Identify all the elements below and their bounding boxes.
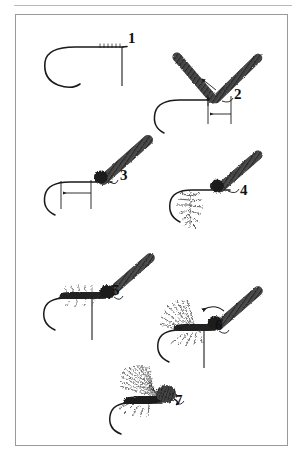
step-number-7: 7	[175, 393, 183, 408]
top-rule-divider	[14, 5, 292, 6]
figure-plate-border	[15, 14, 288, 446]
diagram-page: 1 2 3 4 5 6 7	[0, 0, 307, 465]
step-number-5: 5	[112, 283, 120, 298]
step-number-4: 4	[240, 183, 248, 198]
step-number-1: 1	[128, 31, 136, 46]
step-number-2: 2	[234, 87, 242, 102]
step-number-6: 6	[215, 318, 223, 333]
step-number-3: 3	[120, 168, 128, 183]
